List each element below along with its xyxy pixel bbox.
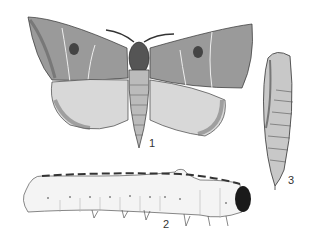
- larva-drawing: [23, 169, 251, 226]
- panel-label-adult: 1: [149, 138, 155, 149]
- adult-moth-drawing: [28, 17, 253, 148]
- panel-label-pupa: 3: [288, 175, 294, 186]
- pupa-drawing: [264, 52, 294, 190]
- panel-label-larva: 2: [163, 219, 169, 230]
- illustration-plate: 1 2 3: [0, 0, 315, 247]
